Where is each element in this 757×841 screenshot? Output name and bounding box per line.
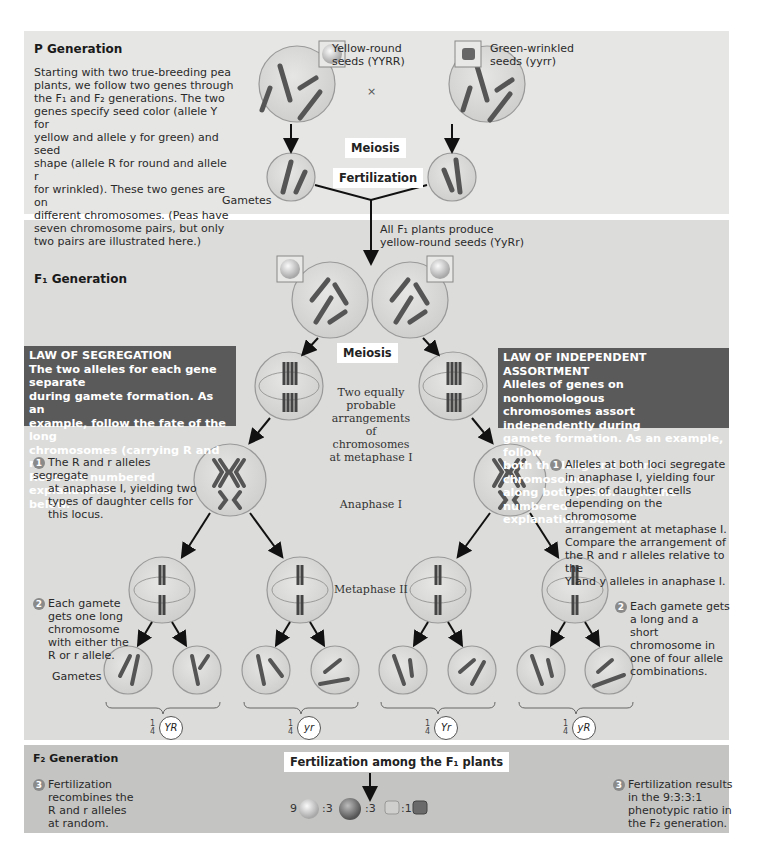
f1-note: All F₁ plants produce yellow-round seeds… — [380, 223, 524, 249]
parent2-gamete-cell — [428, 153, 476, 201]
ratio-yellow-wrinkled: :3 — [365, 802, 376, 815]
right-step-2: 2Each gamete gets a long and a short chr… — [615, 600, 730, 678]
left-step-1: 1The R and r alleles segregate at anapha… — [33, 456, 198, 521]
p-fertilization-label: Fertilization — [333, 168, 423, 188]
f1-generation-title: F₁ Generation — [34, 272, 127, 286]
f2-fertilization-label: Fertilization among the F₁ plants — [284, 752, 509, 772]
f2-generation-title: F₂ Generation — [33, 752, 118, 765]
green-wrinkled-seed-icon — [462, 48, 475, 60]
f1-meiosis-label: Meiosis — [337, 343, 398, 363]
p-generation-description: Starting with two true-breeding pea plan… — [34, 66, 234, 248]
anaphase1-label: Anaphase I — [326, 498, 416, 511]
parent1-label: Yellow-round seeds (YYRR) — [332, 42, 405, 68]
f1-gametes-label: Gametes — [52, 670, 102, 683]
parent2-label: Green-wrinkled seeds (yyrr) — [490, 42, 574, 68]
ratio-yellow-round: 9 — [290, 802, 297, 815]
p-gametes-label: Gametes — [222, 194, 272, 207]
p-generation-title: P Generation — [34, 42, 122, 56]
left-step-2: 2Each gamete gets one long chromosome wi… — [33, 597, 133, 662]
f2-right-step-3: 3Fertilization results in the 9:3:3:1 ph… — [613, 778, 733, 830]
cross-symbol: × — [367, 85, 376, 98]
p-meiosis-label: Meiosis — [345, 138, 406, 158]
metaphase2-label: Metaphase II — [326, 583, 416, 596]
ratio-green-wrinkled: :1 — [401, 802, 412, 815]
law-of-segregation-box: LAW OF SEGREGATION The two alleles for e… — [24, 346, 236, 426]
right-step-1: 1Alleles at both loci segregate in anaph… — [550, 458, 730, 588]
f2-left-step-3: 3Fertilization recombines the R and r al… — [33, 778, 143, 830]
law-of-independent-assortment-box: LAW OF INDEPENDENT ASSORTMENT Alleles of… — [498, 348, 729, 428]
ratio-green-round: :3 — [322, 802, 333, 815]
metaphase1-note: Two equally probable arrangements of chr… — [326, 386, 416, 464]
